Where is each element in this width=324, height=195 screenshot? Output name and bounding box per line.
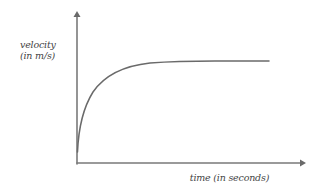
x-axis-arrow-icon xyxy=(300,160,306,167)
x-axis-label: time (in seconds) xyxy=(162,172,297,183)
y-axis-arrow-icon xyxy=(74,11,81,17)
y-axis-label-line1: velocity xyxy=(20,39,56,50)
velocity-curve xyxy=(78,61,270,152)
y-axis-label: velocity (in m/s) xyxy=(20,39,56,61)
velocity-time-diagram xyxy=(0,0,324,195)
y-axis-label-line2: (in m/s) xyxy=(20,50,56,61)
